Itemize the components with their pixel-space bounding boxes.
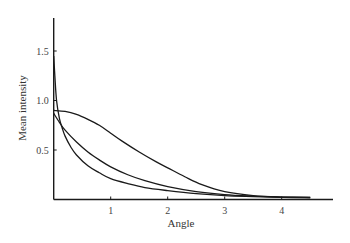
series-line-curve-medium — [54, 113, 311, 197]
axes — [54, 18, 333, 200]
series-layer — [54, 56, 311, 198]
series-line-curve-broad — [54, 110, 311, 197]
y-tick-label: 1.0 — [36, 95, 49, 106]
y-tick-label: 0.5 — [36, 145, 49, 156]
y-tick-label: 1.5 — [36, 46, 49, 57]
series-line-curve-sharp — [54, 56, 311, 198]
x-tick-label: 2 — [165, 205, 170, 216]
x-tick-label: 4 — [279, 205, 284, 216]
x-tick-label: 1 — [108, 205, 113, 216]
x-axis-title: Angle — [168, 217, 195, 229]
line-chart: 12340.51.01.5 Angle Mean intensity — [0, 0, 350, 243]
y-axis-title: Mean intensity — [16, 75, 28, 141]
x-tick-label: 3 — [222, 205, 227, 216]
